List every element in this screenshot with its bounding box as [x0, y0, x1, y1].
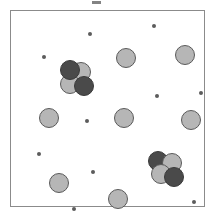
dark-particle-marker [164, 167, 184, 187]
small-speck-marker [88, 32, 92, 36]
small-speck-marker [192, 200, 196, 204]
light-particle-marker [114, 108, 134, 128]
small-speck-marker [155, 94, 159, 98]
light-particle-marker [116, 48, 136, 68]
light-particle-marker [49, 173, 69, 193]
small-speck-marker [91, 170, 95, 174]
light-particle-marker [108, 189, 128, 209]
small-speck-marker [152, 24, 156, 28]
scene-root [0, 0, 212, 217]
top-edge-dash-mark [92, 1, 101, 4]
small-speck-marker [37, 152, 41, 156]
small-speck-marker [85, 119, 89, 123]
small-speck-marker [42, 55, 46, 59]
light-particle-marker [175, 45, 195, 65]
plot-frame [10, 10, 205, 207]
light-particle-marker [39, 108, 59, 128]
particle-layer [11, 11, 204, 206]
dark-particle-marker [74, 76, 94, 96]
small-speck-marker [199, 91, 203, 95]
small-speck-marker [72, 207, 76, 211]
light-particle-marker [181, 110, 201, 130]
